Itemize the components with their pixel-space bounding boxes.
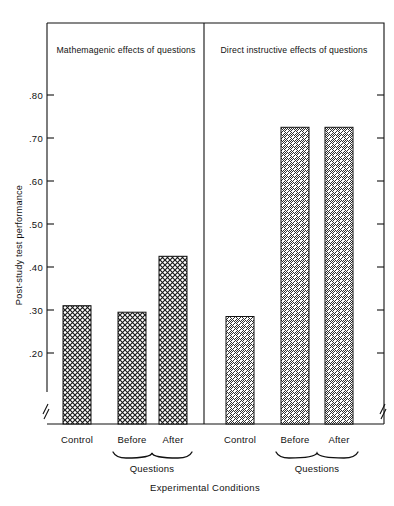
x-label-right-control: Control bbox=[224, 434, 256, 445]
panel-left-bars bbox=[63, 256, 187, 424]
bar-left-after[interactable] bbox=[159, 256, 187, 424]
y-axis-tick-labels: .80 .70 .60 .50 .40 .30 .20 bbox=[29, 90, 43, 359]
bar-right-after[interactable] bbox=[325, 127, 353, 424]
bar-left-control[interactable] bbox=[63, 306, 91, 424]
y-tick-label-40: .40 bbox=[29, 262, 43, 273]
figure-container: .80 .70 .60 .50 .40 .30 .20 Post-study t… bbox=[0, 0, 394, 506]
group-label-right: Questions bbox=[295, 463, 340, 474]
x-label-left-after: After bbox=[162, 434, 183, 445]
group-label-left: Questions bbox=[130, 463, 175, 474]
y-tick-label-50: .50 bbox=[29, 219, 43, 230]
bar-chart: .80 .70 .60 .50 .40 .30 .20 Post-study t… bbox=[0, 0, 394, 506]
x-label-right-after: After bbox=[328, 434, 349, 445]
y-tick-label-20: .20 bbox=[29, 348, 43, 359]
x-axis-category-labels: Control Before After Control Before Afte… bbox=[61, 434, 350, 445]
group-brace-right bbox=[276, 452, 358, 458]
axis-break-right bbox=[380, 404, 386, 419]
y-axis-ticks-right bbox=[377, 95, 384, 353]
bar-right-before[interactable] bbox=[281, 127, 309, 424]
y-tick-label-60: .60 bbox=[29, 176, 43, 187]
panel-title-right: Direct instructive effects of questions bbox=[220, 45, 368, 55]
y-tick-label-80: .80 bbox=[29, 90, 43, 101]
axis-break-left bbox=[43, 404, 49, 419]
y-axis-ticks-left bbox=[47, 95, 54, 353]
group-brace-left bbox=[113, 452, 192, 458]
x-label-left-control: Control bbox=[61, 434, 93, 445]
panel-right-bars bbox=[226, 127, 353, 424]
bar-left-before[interactable] bbox=[118, 312, 146, 424]
y-tick-label-30: .30 bbox=[29, 305, 43, 316]
panel-title-left: Mathemagenic effects of questions bbox=[56, 45, 196, 55]
x-axis-title: Experimental Conditions bbox=[150, 482, 260, 493]
x-label-right-before: Before bbox=[280, 434, 309, 445]
bar-right-control[interactable] bbox=[226, 317, 254, 425]
x-label-left-before: Before bbox=[117, 434, 146, 445]
y-tick-label-70: .70 bbox=[29, 133, 43, 144]
y-axis-title: Post-study test performance bbox=[14, 185, 24, 305]
